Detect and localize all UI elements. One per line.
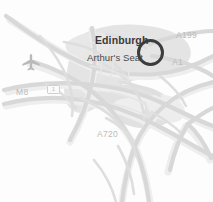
circle-marker-icon[interactable] bbox=[137, 39, 164, 66]
map-vector-layer bbox=[0, 0, 213, 202]
airport-icon bbox=[20, 52, 42, 74]
motorway-shield-label: 1 bbox=[48, 86, 59, 93]
motorway-shield-badge: 1 bbox=[47, 85, 60, 94]
map-canvas[interactable]: 1 Edinburgh Arthur's Seat A199 A1 M8 A72… bbox=[0, 0, 213, 202]
